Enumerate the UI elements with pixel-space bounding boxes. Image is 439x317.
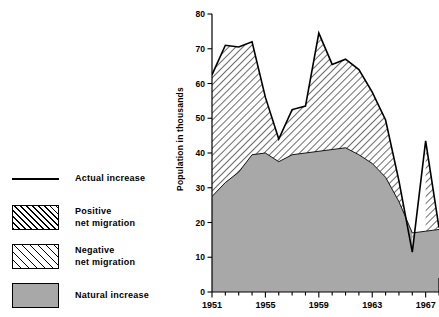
- natural-increase-area: [212, 148, 439, 292]
- legend-item-actual-increase: Actual increase: [12, 166, 162, 191]
- y-axis-tick-label: 60: [196, 79, 206, 89]
- legend-label-actual-increase: Actual increase: [75, 173, 145, 185]
- chart-plot-area: Population in thousands 0102030405060708…: [163, 6, 439, 317]
- legend-label-natural-increase: Natural increase: [75, 290, 149, 302]
- y-axis-tick-label: 10: [196, 252, 206, 262]
- negative-net-migration-swatch-icon: [12, 244, 59, 269]
- y-axis-tick-label: 50: [196, 113, 206, 123]
- legend-item-natural-increase: Natural increase: [12, 283, 162, 308]
- figure: Actual increase Positive net migration N…: [0, 0, 439, 317]
- y-axis-tick-label: 40: [196, 148, 206, 158]
- legend-item-negative-net-migration: Negative net migration: [12, 244, 162, 269]
- y-axis-tick-label: 80: [196, 9, 206, 19]
- area-chart: 0102030405060708019511955195919631967: [163, 6, 439, 317]
- y-axis-tick-label: 20: [196, 218, 206, 228]
- y-axis-tick-label: 0: [200, 287, 205, 297]
- natural-increase-swatch-icon: [12, 283, 59, 308]
- legend-label-negative-net-migration: Negative net migration: [75, 245, 135, 268]
- chart-legend: Actual increase Positive net migration N…: [12, 166, 162, 308]
- x-axis-tick-label: 1967: [416, 300, 436, 310]
- data-layer: [212, 33, 439, 292]
- legend-item-positive-net-migration: Positive net migration: [12, 205, 162, 230]
- y-axis-title: Population in thousands: [175, 84, 185, 194]
- actual-increase-line-icon: [12, 166, 59, 191]
- legend-label-positive-net-migration: Positive net migration: [75, 206, 135, 229]
- y-axis-tick-label: 70: [196, 44, 206, 54]
- x-axis-tick-label: 1963: [362, 300, 382, 310]
- x-axis-tick-label: 1951: [202, 300, 222, 310]
- y-axis-tick-label: 30: [196, 183, 206, 193]
- positive-net-migration-swatch-icon: [12, 205, 59, 230]
- x-axis-tick-label: 1959: [309, 300, 329, 310]
- x-axis-tick-label: 1955: [255, 300, 275, 310]
